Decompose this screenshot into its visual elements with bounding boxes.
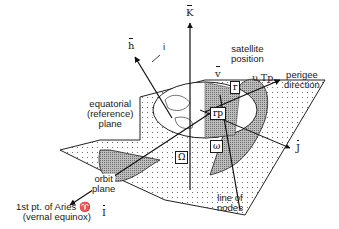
vernal-equinox-label: 1st pt. of Aries ♈ (vernal equinox) xyxy=(16,202,91,222)
earth-globe xyxy=(153,82,257,138)
velocity-label: v xyxy=(215,66,221,79)
k-axis-label: K xyxy=(186,5,193,18)
orbital-elements-diagram xyxy=(0,0,339,229)
raan-box: Ω xyxy=(175,151,188,164)
position-vector-box: r xyxy=(230,81,240,94)
h-axis-label: h xyxy=(128,38,134,51)
arg-perigee-box: ω xyxy=(210,140,223,153)
inclination-leader xyxy=(152,55,160,62)
j-axis-label: J xyxy=(296,140,300,153)
line-of-nodes-label: line of nodes xyxy=(217,193,243,213)
true-anomaly-label: υ,Tp xyxy=(252,73,273,83)
inclination-label: i xyxy=(163,42,165,52)
orbit-plane-label: orbit plane xyxy=(92,174,115,194)
i-axis-label: I xyxy=(102,205,106,218)
equatorial-plane-label: equatorial (reference) plane xyxy=(87,99,133,129)
perigee-direction-label: perigee direction xyxy=(284,70,320,90)
perigee-vector-box: rp xyxy=(210,107,226,120)
satellite-position-label: satellite position xyxy=(231,44,264,64)
